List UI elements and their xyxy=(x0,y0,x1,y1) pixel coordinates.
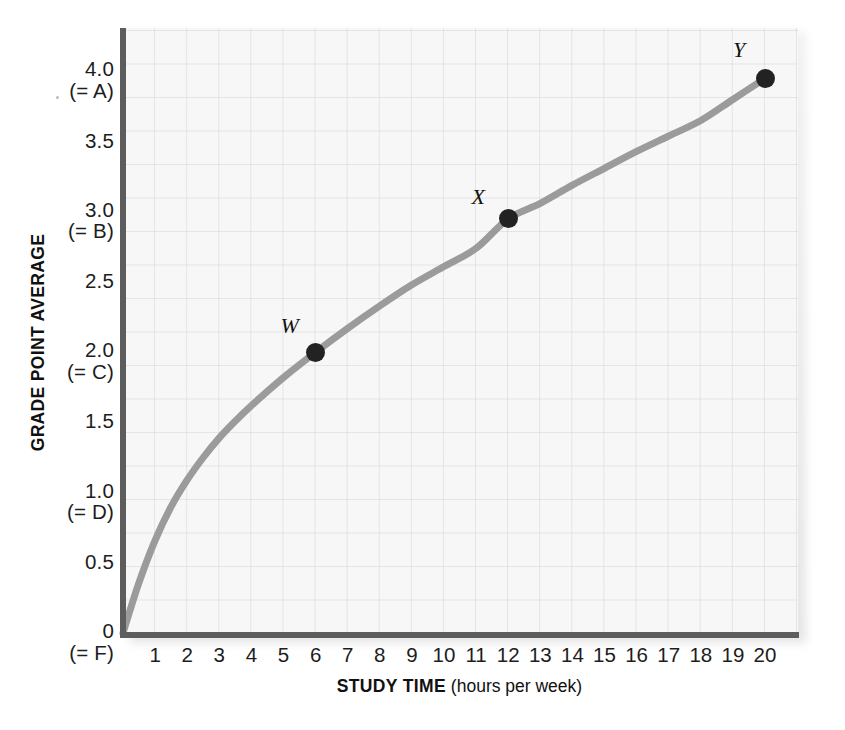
y-tick-label: 1.5 xyxy=(2,410,114,432)
data-point-label-x: X xyxy=(471,184,484,210)
y-tick-label: 0.5 xyxy=(2,551,114,573)
y-tick-label: 2.5 xyxy=(2,270,114,292)
y-tick-grade: (= B) xyxy=(2,220,114,243)
y-tick-label: 3.0(= B) xyxy=(2,199,114,243)
x-tick-label: 13 xyxy=(529,645,552,666)
y-tick-value: 2.5 xyxy=(2,270,114,292)
x-tick-label: 7 xyxy=(342,645,353,666)
x-tick-label: 14 xyxy=(561,645,584,666)
x-tick-label: 9 xyxy=(406,645,417,666)
data-point-label-y: Y xyxy=(733,37,745,63)
x-axis-line xyxy=(120,632,799,638)
data-point-label-w: W xyxy=(280,313,298,339)
y-tick-value: 3.0 xyxy=(2,199,114,221)
x-axis-title: STUDY TIME (hours per week) xyxy=(120,676,799,697)
x-tick-label: 17 xyxy=(657,645,680,666)
gpa-study-time-figure: 4.0(= A)3.53.0(= B)2.52.0(= C)1.51.0(= D… xyxy=(0,0,845,730)
x-axis-tick-labels: 1234567891011121314151617181920 xyxy=(0,645,845,675)
curve-layer xyxy=(0,0,845,730)
y-tick-grade: (= A) xyxy=(2,80,114,103)
x-tick-label: 15 xyxy=(593,645,616,666)
x-tick-label: 3 xyxy=(214,645,225,666)
x-tick-label: 1 xyxy=(149,645,160,666)
y-tick-label: 3.5 xyxy=(2,130,114,152)
x-axis-title-main: STUDY TIME xyxy=(337,676,446,696)
y-tick-value: 3.5 xyxy=(2,130,114,152)
y-axis-title: GRADE POINT AVERAGE xyxy=(28,193,49,493)
x-tick-label: 6 xyxy=(310,645,321,666)
y-axis-line xyxy=(120,28,126,638)
data-point-y[interactable] xyxy=(756,69,775,88)
gpa-curve xyxy=(123,78,765,633)
x-tick-label: 10 xyxy=(433,645,456,666)
x-tick-label: 20 xyxy=(754,645,777,666)
y-tick-value: 0.5 xyxy=(2,551,114,573)
y-tick-grade: (= D) xyxy=(2,501,114,524)
data-point-x[interactable] xyxy=(499,209,518,228)
x-tick-label: 12 xyxy=(497,645,520,666)
y-tick-label: 2.0(= C) xyxy=(2,339,114,383)
x-axis-title-unit: (hours per week) xyxy=(451,676,582,696)
x-tick-label: 5 xyxy=(278,645,289,666)
y-tick-value: 2.0 xyxy=(2,339,114,361)
y-tick-value: 4.0 xyxy=(2,58,114,80)
x-tick-label: 8 xyxy=(374,645,385,666)
x-tick-label: 2 xyxy=(181,645,192,666)
y-tick-grade: (= C) xyxy=(2,361,114,384)
x-tick-label: 4 xyxy=(246,645,257,666)
y-tick-label: 1.0(= D) xyxy=(2,480,114,524)
y-tick-value: 0 xyxy=(2,620,114,642)
y-tick-value: 1.5 xyxy=(2,410,114,432)
y-tick-label: 4.0(= A) xyxy=(2,58,114,102)
x-tick-label: 11 xyxy=(465,645,486,666)
x-tick-label: 19 xyxy=(721,645,744,666)
x-tick-label: 16 xyxy=(625,645,648,666)
y-axis-tick-labels: 4.0(= A)3.53.0(= B)2.52.0(= C)1.51.0(= D… xyxy=(0,0,114,730)
data-point-w[interactable] xyxy=(306,343,325,362)
x-tick-label: 18 xyxy=(689,645,712,666)
y-tick-value: 1.0 xyxy=(2,480,114,502)
